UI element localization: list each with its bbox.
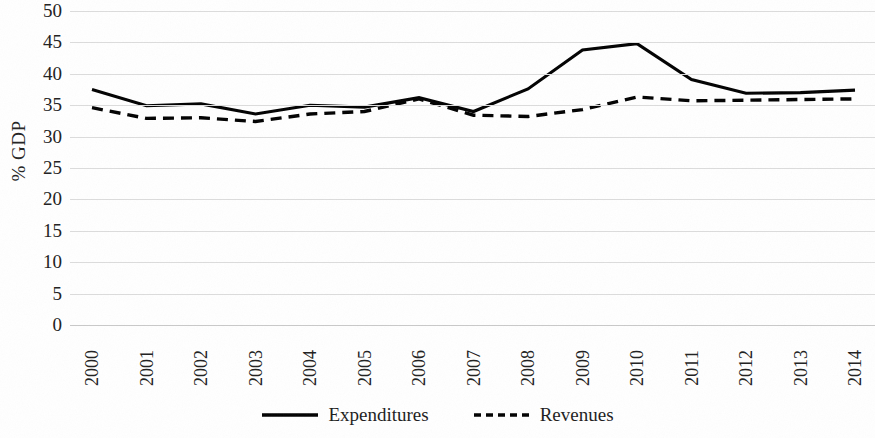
gridline-45 (70, 42, 875, 43)
x-tick-2005: 2005 (356, 335, 374, 401)
x-tick-2008: 2008 (519, 335, 537, 401)
gridline-5 (70, 294, 875, 295)
gridline-30 (70, 137, 875, 138)
y-tick-15: 15 (4, 221, 62, 240)
y-tick-40: 40 (4, 64, 62, 83)
legend-swatch-solid (261, 408, 319, 422)
x-tick-2013: 2013 (792, 335, 810, 401)
x-tick-2014: 2014 (846, 335, 864, 401)
x-tick-2009: 2009 (574, 335, 592, 401)
line-chart-figure: % GDP 50454035302520151050 2000200120022… (0, 0, 875, 438)
x-axis-tick-labels: 2000200120022003200420052006200720082009… (70, 326, 875, 396)
y-tick-45: 45 (4, 32, 62, 51)
y-tick-20: 20 (4, 189, 62, 208)
series-line-expenditures (92, 44, 855, 114)
legend-label-expenditures: Expenditures (328, 404, 428, 426)
y-tick-5: 5 (4, 284, 62, 303)
gridline-15 (70, 231, 875, 232)
gridline-10 (70, 262, 875, 263)
x-tick-2000: 2000 (83, 335, 101, 401)
gridline-35 (70, 105, 875, 106)
series-lines (70, 0, 875, 326)
gridline-20 (70, 199, 875, 200)
x-tick-2012: 2012 (737, 335, 755, 401)
gridline-50 (70, 11, 875, 12)
gridline-40 (70, 74, 875, 75)
y-tick-25: 25 (4, 158, 62, 177)
series-line-revenues (92, 97, 855, 122)
gridline-25 (70, 168, 875, 169)
x-tick-2010: 2010 (628, 335, 646, 401)
y-tick-35: 35 (4, 95, 62, 114)
x-tick-2011: 2011 (683, 335, 701, 401)
x-tick-2002: 2002 (192, 335, 210, 401)
y-tick-30: 30 (4, 127, 62, 146)
x-tick-2006: 2006 (410, 335, 428, 401)
legend-entry-revenues: Revenues (473, 404, 614, 426)
x-tick-2001: 2001 (138, 335, 156, 401)
x-tick-2007: 2007 (465, 335, 483, 401)
y-axis-tick-labels: 50454035302520151050 (0, 0, 62, 340)
x-tick-2004: 2004 (301, 335, 319, 401)
y-tick-10: 10 (4, 252, 62, 271)
y-tick-0: 0 (4, 315, 62, 334)
chart-legend: ExpendituresRevenues (0, 404, 875, 426)
legend-label-revenues: Revenues (540, 404, 614, 426)
legend-swatch-dashed (473, 408, 531, 422)
plot-area (70, 0, 875, 326)
x-tick-2003: 2003 (247, 335, 265, 401)
y-tick-50: 50 (4, 1, 62, 20)
legend-entry-expenditures: Expenditures (261, 404, 428, 426)
